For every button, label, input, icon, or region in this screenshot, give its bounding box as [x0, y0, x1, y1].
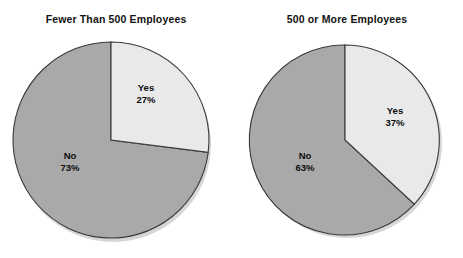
pie-label-yes: Yes 37%	[385, 105, 404, 128]
chart-title-500-or-more: 500 or More Employees	[231, 13, 463, 25]
figure-canvas: Fewer Than 500 Employees Yes 27% No 73% …	[0, 0, 463, 258]
pie-label-no: No 73%	[60, 150, 79, 173]
pie-label-no-name: No	[64, 150, 77, 161]
pie-label-no-percent: 73%	[60, 161, 79, 173]
pie-chart-500-or-more	[249, 42, 447, 244]
pie-label-yes-percent: 27%	[136, 93, 155, 105]
pie-label-yes-name: Yes	[387, 105, 403, 116]
pie-slice-yes	[111, 42, 209, 152]
pie-chart-fewer-than-500	[12, 40, 214, 246]
pie-label-no-name: No	[299, 150, 312, 161]
chart-title-fewer-than-500: Fewer Than 500 Employees	[0, 13, 232, 25]
pie-label-no: No 63%	[295, 150, 314, 173]
pie-label-yes: Yes 27%	[136, 82, 155, 105]
pie-label-yes-percent: 37%	[385, 116, 404, 128]
pie-label-yes-name: Yes	[138, 82, 154, 93]
pie-label-no-percent: 63%	[295, 161, 314, 173]
chart-panel-500-or-more: 500 or More Employees Yes 37% No 63%	[231, 0, 463, 258]
pie-svg-fewer-than-500	[12, 40, 214, 246]
pie-svg-500-or-more	[249, 42, 447, 244]
chart-panel-fewer-than-500: Fewer Than 500 Employees Yes 27% No 73%	[0, 0, 232, 258]
